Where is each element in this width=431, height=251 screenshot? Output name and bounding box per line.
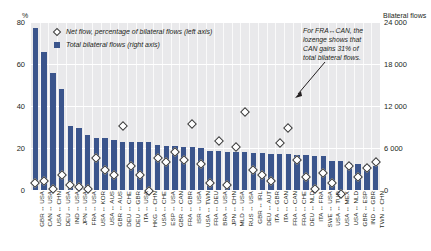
lozenge-marker: [371, 157, 381, 167]
x-axis-tick-label: GBR ↔ USA: [38, 191, 45, 227]
x-axis-tick-label: GBR ↔ IRL: [256, 191, 263, 224]
lozenge-marker: [327, 178, 337, 188]
x-axis-tick-label: DEU ↔ NLD: [308, 191, 315, 226]
x-axis-tick-label: FRA ↔ DEU: [212, 191, 219, 226]
square-marker-icon: [54, 42, 60, 48]
lozenge-marker: [109, 170, 119, 180]
lozenge-marker: [345, 161, 355, 171]
x-axis-tick-label: BRA ↔ USA: [221, 191, 228, 226]
lozenge-marker: [126, 161, 136, 171]
lozenge-marker: [91, 153, 101, 163]
lozenge-marker: [257, 170, 267, 180]
lozenge-marker: [283, 123, 293, 133]
lozenge-marker: [240, 107, 250, 117]
x-axis-tick-label: DEU ↔ GBR: [134, 191, 141, 227]
right-axis-tick-label: 18 000: [384, 60, 430, 69]
lozenge-marker: [231, 142, 241, 152]
lozenge-marker: [135, 170, 145, 180]
right-axis-tick-label: 6 000: [384, 144, 430, 153]
x-axis-tick-label: FRA ↔ CAN: [291, 191, 298, 226]
chart-container: % Bilateral flows 020406080 06 00012 000…: [0, 0, 431, 251]
left-axis-tick-label: 60: [1, 60, 25, 69]
x-axis-tick-label: JPN ↔ CHN: [230, 191, 237, 226]
x-axis-tick-label: GBR ↔ ESP: [361, 191, 368, 226]
x-axis-tick-label: DEU ↔ AUT: [265, 191, 272, 226]
lozenge-marker: [57, 170, 67, 180]
left-axis-tick-label: 20: [1, 144, 25, 153]
x-axis-tick-label: TWN ↔ CHN: [378, 191, 385, 228]
x-axis-tick-label: JPN ↔ USA: [81, 191, 88, 225]
x-axis-tick-label: ITA ↔ USA: [142, 191, 149, 222]
x-axis-tick-label: USA ↔ AUS: [108, 191, 115, 225]
lozenge-marker: [187, 119, 197, 129]
x-axis-tick-label: DEU ↔ USA: [64, 191, 71, 226]
x-axis-tick-label: USA ↔ KOR: [99, 191, 106, 226]
lozenge-marker: [362, 163, 372, 173]
x-axis-tick-label: RUS ↔ USA: [247, 191, 254, 226]
x-axis-tick-label: USA ↔ CHN: [55, 191, 62, 226]
x-axis-tick-label: ITA ↔ FRA: [317, 191, 324, 222]
right-axis-tick-label: 12 000: [384, 102, 430, 111]
x-axis-tick-label: USA ↔ CHE: [160, 191, 167, 226]
lozenge-marker-icon: [53, 27, 61, 35]
left-axis-tick-label: 40: [1, 102, 25, 111]
legend-item-net-flow: Net flow, percentage of bilateral flows …: [53, 26, 212, 37]
x-axis-tick-label: FRA ↔ USA: [90, 191, 97, 225]
x-axis-tick-label: DEU ↔ CHE: [125, 191, 132, 227]
legend-item-total-flows: Total bilateral flows (right axis): [53, 39, 212, 50]
lozenge-marker: [301, 172, 311, 182]
lozenge-marker: [353, 172, 363, 182]
x-axis-tick-label: MLD ↔ USA: [238, 191, 245, 226]
left-axis-tick-label: 0: [1, 186, 25, 195]
right-axis-tick-label: 24 000: [384, 18, 430, 27]
x-axis-tick-label: USA ↔ TUR: [334, 191, 341, 226]
x-axis-tick-label: HKG ↔ CHN: [151, 191, 158, 227]
lozenge-marker: [292, 155, 302, 165]
lozenge-marker: [205, 178, 215, 188]
lozenge-marker: [118, 121, 128, 131]
lozenge-marker: [179, 155, 189, 165]
lozenge-marker: [39, 176, 49, 186]
annotation-text: For FRA↔CAN, the lozenge shows that CAN …: [303, 27, 365, 63]
legend-label-total-flows: Total bilateral flows (right axis): [66, 41, 160, 48]
x-axis-tick-label: CAN ↔ USA: [46, 191, 53, 226]
lozenge-marker: [222, 180, 232, 190]
legend-label-net-flow: Net flow, percentage of bilateral flows …: [66, 28, 212, 35]
lozenge-marker: [318, 168, 328, 178]
x-axis-tick-label: USA ↔ TWN: [204, 191, 211, 227]
x-axis-tick-label: USA ↔ MEX: [343, 191, 350, 226]
x-axis-tick-label: GBR ↔ CAN: [177, 191, 184, 227]
lozenge-marker: [170, 147, 180, 157]
lozenge-marker: [266, 176, 276, 186]
x-axis-tick-label: ESP ↔ USA: [169, 191, 176, 226]
lozenge-marker: [196, 159, 206, 169]
lozenge-marker: [214, 136, 224, 146]
right-axis-tick-label: 0: [384, 186, 430, 195]
lozenge-marker: [65, 180, 75, 190]
left-axis-tick-label: 80: [1, 18, 25, 27]
x-axis-tick-label: USA ↔ NLD: [352, 191, 359, 225]
x-axis-tick-label: ITA ↔ GBR: [273, 191, 280, 223]
lozenge-marker: [161, 157, 171, 167]
x-axis-tick-label: FRA ↔ GBR: [186, 191, 193, 226]
x-axis-tick-label: ISR ↔ USA: [195, 191, 202, 224]
x-axis-tick-label: GBR ↔ AUS: [116, 191, 123, 226]
x-axis-tick-label: IND ↔ USA: [73, 191, 80, 224]
x-axis-tick-label: ITA ↔ CAN: [282, 191, 289, 223]
x-axis-tick-label: FRA ↔ CHE: [300, 191, 307, 226]
annotation-arrow-icon: [291, 60, 327, 100]
chart-legend: Net flow, percentage of bilateral flows …: [53, 26, 212, 52]
x-axis-tick-label: IND ↔ GBR: [369, 191, 376, 225]
x-axis-labels: GBR ↔ USACAN ↔ USAUSA ↔ CHNDEU ↔ USAIND …: [31, 191, 380, 251]
x-axis-tick-label: SWE ↔ USA: [326, 191, 333, 227]
lozenge-marker: [275, 138, 285, 148]
